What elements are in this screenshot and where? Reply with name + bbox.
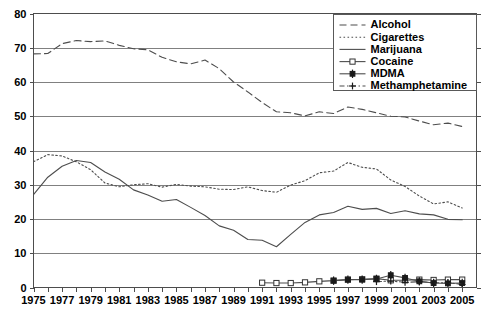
x-axis-label: 2003 [421, 294, 445, 306]
y-axis-label: 50 [14, 110, 26, 122]
x-axis-label: 1997 [336, 294, 360, 306]
legend-marker-cocaine [350, 59, 355, 64]
y-axis-label: 20 [14, 213, 26, 225]
x-axis-label: 2001 [393, 294, 417, 306]
y-axis-label: 70 [14, 42, 26, 54]
line-chart: 01020304050607080 1975197719791981198319… [0, 0, 489, 315]
legend-label: Cocaine [371, 55, 414, 67]
marker-cocaine [288, 280, 293, 285]
x-axis-label: 1987 [193, 294, 217, 306]
marker-cocaine [274, 280, 279, 285]
x-axis-label: 1999 [364, 294, 388, 306]
marker-cocaine [260, 280, 265, 285]
y-axis-label: 80 [14, 8, 26, 20]
marker-cocaine [302, 280, 307, 285]
x-axis-label: 1995 [307, 294, 331, 306]
x-axis-label: 1985 [164, 294, 188, 306]
legend-label: MDMA [371, 67, 405, 79]
legend-label: Alcohol [371, 18, 411, 30]
x-axis-label: 1993 [278, 294, 302, 306]
y-axis-label: 10 [14, 247, 26, 259]
x-axis-label: 1981 [107, 294, 131, 306]
x-axis-label: 1991 [250, 294, 274, 306]
legend-label: Marijuana [371, 43, 423, 55]
legend-label: Methamphetamine [371, 79, 468, 91]
x-axis-label: 1983 [136, 294, 160, 306]
legend-label: Cigarettes [371, 31, 425, 43]
y-axis-labels: 01020304050607080 [14, 8, 26, 294]
x-axis-label: 2005 [450, 294, 474, 306]
chart-legend: AlcoholCigarettesMarijuanaCocaineMDMAMet… [334, 15, 477, 92]
marker-cocaine [317, 279, 322, 284]
y-axis-label: 0 [20, 282, 26, 294]
x-axis-label: 1975 [21, 294, 45, 306]
y-axis-label: 30 [14, 179, 26, 191]
chart-container: 01020304050607080 1975197719791981198319… [0, 0, 489, 315]
x-axis-label: 1989 [221, 294, 245, 306]
y-axis-label: 40 [14, 145, 26, 157]
x-axis-label: 1977 [50, 294, 74, 306]
x-axis-label: 1979 [78, 294, 102, 306]
y-axis-label: 60 [14, 76, 26, 88]
